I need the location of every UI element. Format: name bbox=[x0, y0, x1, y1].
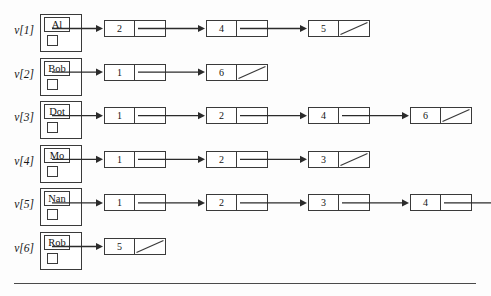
list-node: 5 bbox=[308, 20, 370, 37]
list-node-null-link bbox=[237, 65, 267, 80]
list-node-value: 3 bbox=[309, 152, 339, 167]
vertex-record: Rob bbox=[40, 232, 82, 270]
list-node-value: 2 bbox=[207, 195, 237, 210]
list-node: 4 bbox=[206, 20, 268, 37]
list-node: 2 bbox=[206, 151, 268, 168]
list-node-next-link bbox=[339, 195, 369, 210]
list-node-next-link bbox=[135, 195, 165, 210]
adjacency-row: v[6]Rob5 bbox=[0, 232, 491, 272]
vertex-name-box: Rob bbox=[44, 235, 70, 250]
list-node-null-link bbox=[339, 152, 369, 167]
vertex-head-pointer-box bbox=[47, 166, 58, 177]
list-node: 3 bbox=[308, 151, 370, 168]
list-node-next-link bbox=[339, 108, 369, 123]
list-node-value: 4 bbox=[309, 108, 339, 123]
vertex-name-box: Nan bbox=[44, 191, 70, 206]
null-slash-icon bbox=[339, 152, 369, 167]
null-slash-icon bbox=[441, 108, 471, 123]
list-node: 4 bbox=[410, 194, 472, 211]
vertex-index-label: v[3] bbox=[4, 111, 34, 123]
horizontal-rule bbox=[14, 283, 476, 284]
vertex-name-box: Al bbox=[44, 17, 70, 32]
vertex-name-box: Dot bbox=[44, 104, 70, 119]
list-node: 1 bbox=[104, 194, 166, 211]
vertex-index-label: v[5] bbox=[4, 198, 34, 210]
vertex-head-pointer-box bbox=[47, 122, 58, 133]
vertex-record: Al bbox=[40, 14, 82, 52]
list-node-next-link bbox=[237, 21, 267, 36]
list-node-next-link bbox=[135, 65, 165, 80]
list-node-value: 4 bbox=[411, 195, 441, 210]
list-node-next-link bbox=[237, 152, 267, 167]
list-node-next-link bbox=[441, 195, 471, 210]
list-node-value: 1 bbox=[105, 108, 135, 123]
list-node: 4 bbox=[308, 107, 370, 124]
vertex-index-label: v[1] bbox=[4, 24, 34, 36]
list-node-next-link bbox=[237, 108, 267, 123]
vertex-name-box: Mo bbox=[44, 148, 70, 163]
list-node-value: 2 bbox=[105, 21, 135, 36]
vertex-index-label: v[6] bbox=[4, 242, 34, 254]
vertex-index-label: v[4] bbox=[4, 155, 34, 167]
vertex-head-pointer-box bbox=[47, 253, 58, 264]
list-node: 6 bbox=[410, 107, 472, 124]
list-node-value: 6 bbox=[411, 108, 441, 123]
vertex-head-pointer-box bbox=[47, 79, 58, 90]
list-node-next-link bbox=[135, 108, 165, 123]
null-slash-icon bbox=[135, 239, 165, 254]
null-slash-icon bbox=[237, 65, 267, 80]
list-node-value: 2 bbox=[207, 152, 237, 167]
list-node-value: 1 bbox=[105, 65, 135, 80]
list-node: 2 bbox=[104, 20, 166, 37]
list-node-value: 6 bbox=[207, 65, 237, 80]
adjacency-row: v[2]Bob16 bbox=[0, 58, 491, 98]
list-node-value: 5 bbox=[105, 239, 135, 254]
vertex-record: Dot bbox=[40, 101, 82, 139]
list-node-next-link bbox=[135, 21, 165, 36]
list-node-null-link bbox=[339, 21, 369, 36]
vertex-head-pointer-box bbox=[47, 35, 58, 46]
vertex-record: Nan bbox=[40, 188, 82, 226]
adjacency-list-diagram: v[1]Al245v[2]Bob16v[3]Dot1246v[4]Mo123v[… bbox=[0, 0, 491, 296]
vertex-head-pointer-box bbox=[47, 209, 58, 220]
list-node: 2 bbox=[206, 107, 268, 124]
null-slash-icon bbox=[339, 21, 369, 36]
list-node: 6 bbox=[206, 64, 268, 81]
list-node-next-link bbox=[135, 152, 165, 167]
list-node-value: 2 bbox=[207, 108, 237, 123]
list-node-value: 4 bbox=[207, 21, 237, 36]
list-node-value: 1 bbox=[105, 195, 135, 210]
list-node: 2 bbox=[206, 194, 268, 211]
list-node: 3 bbox=[308, 194, 370, 211]
vertex-index-label: v[2] bbox=[4, 68, 34, 80]
list-node: 1 bbox=[104, 107, 166, 124]
list-node: 1 bbox=[104, 64, 166, 81]
list-node-value: 5 bbox=[309, 21, 339, 36]
list-node-null-link bbox=[441, 108, 471, 123]
list-node-value: 3 bbox=[309, 195, 339, 210]
adjacency-row: v[1]Al245 bbox=[0, 14, 491, 54]
adjacency-row: v[3]Dot1246 bbox=[0, 101, 491, 141]
list-node: 5 bbox=[104, 238, 166, 255]
vertex-record: Mo bbox=[40, 145, 82, 183]
list-node-null-link bbox=[135, 239, 165, 254]
list-node-value: 1 bbox=[105, 152, 135, 167]
adjacency-row: v[4]Mo123 bbox=[0, 145, 491, 185]
list-node: 1 bbox=[104, 151, 166, 168]
adjacency-row: v[5]Nan12346 bbox=[0, 188, 491, 228]
vertex-record: Bob bbox=[40, 58, 82, 96]
list-node-next-link bbox=[237, 195, 267, 210]
vertex-name-box: Bob bbox=[44, 61, 70, 76]
